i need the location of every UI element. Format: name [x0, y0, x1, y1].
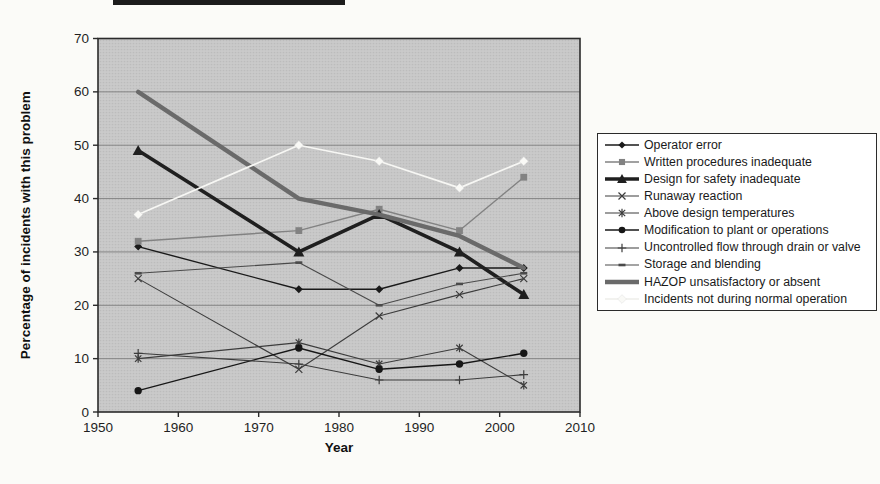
- x-tick-label: 1960: [163, 420, 193, 435]
- y-axis-title: Percentage of incidents with this proble…: [18, 91, 33, 359]
- legend-label: Operator error: [644, 139, 722, 151]
- y-tick-label: 10: [74, 351, 89, 366]
- legend-sample-6: [604, 242, 640, 254]
- y-tick-label: 60: [74, 84, 89, 99]
- legend-label: Written procedures inadequate: [644, 156, 812, 168]
- legend-item: Design for safety inadequate: [604, 171, 872, 187]
- legend-sample-9: [604, 293, 640, 305]
- legend-item: Uncontrolled flow through drain or valve: [604, 240, 872, 256]
- x-tick-label: 1970: [244, 420, 274, 435]
- legend-item: Modification to plant or operations: [604, 222, 872, 238]
- legend-sample-4: [604, 207, 640, 219]
- y-tick-label: 20: [74, 298, 89, 313]
- legend-sample-3: [604, 190, 640, 202]
- legend-label: Uncontrolled flow through drain or valve: [644, 241, 861, 253]
- legend-item: HAZOP unsatisfactory or absent: [604, 274, 872, 290]
- legend-label: Incidents not during normal operation: [644, 293, 847, 305]
- y-tick-label: 50: [74, 138, 89, 153]
- legend-sample-8: [604, 276, 640, 288]
- y-tick-label: 0: [81, 405, 89, 420]
- legend-label: Runaway reaction: [644, 190, 742, 202]
- x-tick-label: 2000: [485, 420, 515, 435]
- legend-label: Storage and blending: [644, 258, 761, 270]
- legend-label: Above design temperatures: [644, 207, 794, 219]
- x-tick-label: 1950: [83, 420, 113, 435]
- y-tick-label: 40: [74, 191, 89, 206]
- legend-label: HAZOP unsatisfactory or absent: [644, 276, 820, 288]
- y-tick-label: 70: [74, 31, 89, 46]
- legend-item: Written procedures inadequate: [604, 154, 872, 170]
- legend-sample-0: [604, 139, 640, 151]
- legend-item: Incidents not during normal operation: [604, 291, 872, 307]
- legend-label: Modification to plant or operations: [644, 224, 829, 236]
- legend-sample-1: [604, 156, 640, 168]
- legend-item: Above design temperatures: [604, 205, 872, 221]
- x-tick-label: 1980: [324, 420, 354, 435]
- x-tick-label: 1990: [404, 420, 434, 435]
- y-tick-label: 30: [74, 244, 89, 259]
- legend-sample-2: [604, 173, 640, 185]
- legend-item: Operator error: [604, 137, 872, 153]
- legend-item: Storage and blending: [604, 257, 872, 273]
- x-tick-label: 2010: [565, 420, 595, 435]
- legend-label: Design for safety inadequate: [644, 173, 801, 185]
- legend-item: Runaway reaction: [604, 188, 872, 204]
- scanned-line-chart-figure: 1950196019701980199020002010010203040506…: [0, 0, 880, 484]
- legend-sample-7: [604, 259, 640, 271]
- legend-sample-5: [604, 224, 640, 236]
- chart-legend: Operator errorWritten procedures inadequ…: [597, 133, 877, 311]
- x-axis-title: Year: [325, 440, 354, 455]
